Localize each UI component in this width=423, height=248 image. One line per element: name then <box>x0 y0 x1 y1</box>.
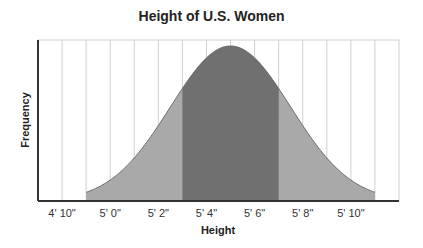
x-tick-label: 5' 10" <box>337 207 364 219</box>
x-tick-label: 5' 8" <box>292 207 313 219</box>
x-tick-label: 5' 6" <box>244 207 265 219</box>
x-tick-label: 5' 4" <box>196 207 217 219</box>
x-tick-label: 4' 10" <box>48 207 75 219</box>
x-tick-label: 5' 2" <box>148 207 169 219</box>
x-tick-label: 5' 0" <box>100 207 121 219</box>
